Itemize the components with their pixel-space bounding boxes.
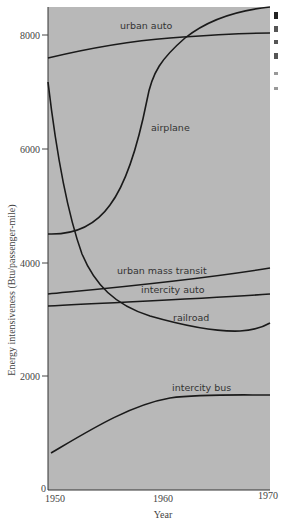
y-axis-title: Energy intensiveness (Btu/passenger-mile… bbox=[6, 204, 18, 375]
caption-mark bbox=[274, 40, 278, 44]
caption-mark bbox=[274, 53, 278, 59]
x-tick-1950: 1950 bbox=[45, 493, 65, 504]
label-urban-auto: urban auto bbox=[120, 20, 172, 31]
energy-intensiveness-chart: 8000 6000 4000 2000 0 1950 1960 1970 Yea… bbox=[0, 0, 284, 528]
label-airplane: airplane bbox=[151, 122, 190, 133]
x-tick-1960: 1960 bbox=[153, 493, 173, 504]
y-tick-6000: 6000 bbox=[20, 144, 40, 155]
y-tick-8000: 8000 bbox=[20, 30, 40, 41]
caption-mark bbox=[274, 72, 278, 75]
label-intercity-auto: intercity auto bbox=[141, 284, 205, 295]
y-tick-4000: 4000 bbox=[20, 258, 40, 269]
label-urban-mass-transit: urban mass transit bbox=[117, 265, 207, 276]
plot-area bbox=[48, 7, 270, 490]
x-tick-1970: 1970 bbox=[258, 490, 278, 501]
cropped-caption-fragment bbox=[272, 8, 284, 118]
label-railroad: railroad bbox=[173, 312, 209, 323]
x-axis-title: Year bbox=[154, 509, 173, 520]
caption-mark bbox=[274, 87, 278, 90]
y-tick-2000: 2000 bbox=[20, 371, 40, 382]
y-ticks: 8000 6000 4000 2000 0 bbox=[20, 30, 48, 494]
caption-mark bbox=[274, 12, 278, 19]
x-ticks: 1950 1960 1970 bbox=[45, 490, 278, 504]
caption-mark bbox=[274, 26, 278, 32]
label-intercity-bus: intercity bus bbox=[172, 382, 231, 393]
